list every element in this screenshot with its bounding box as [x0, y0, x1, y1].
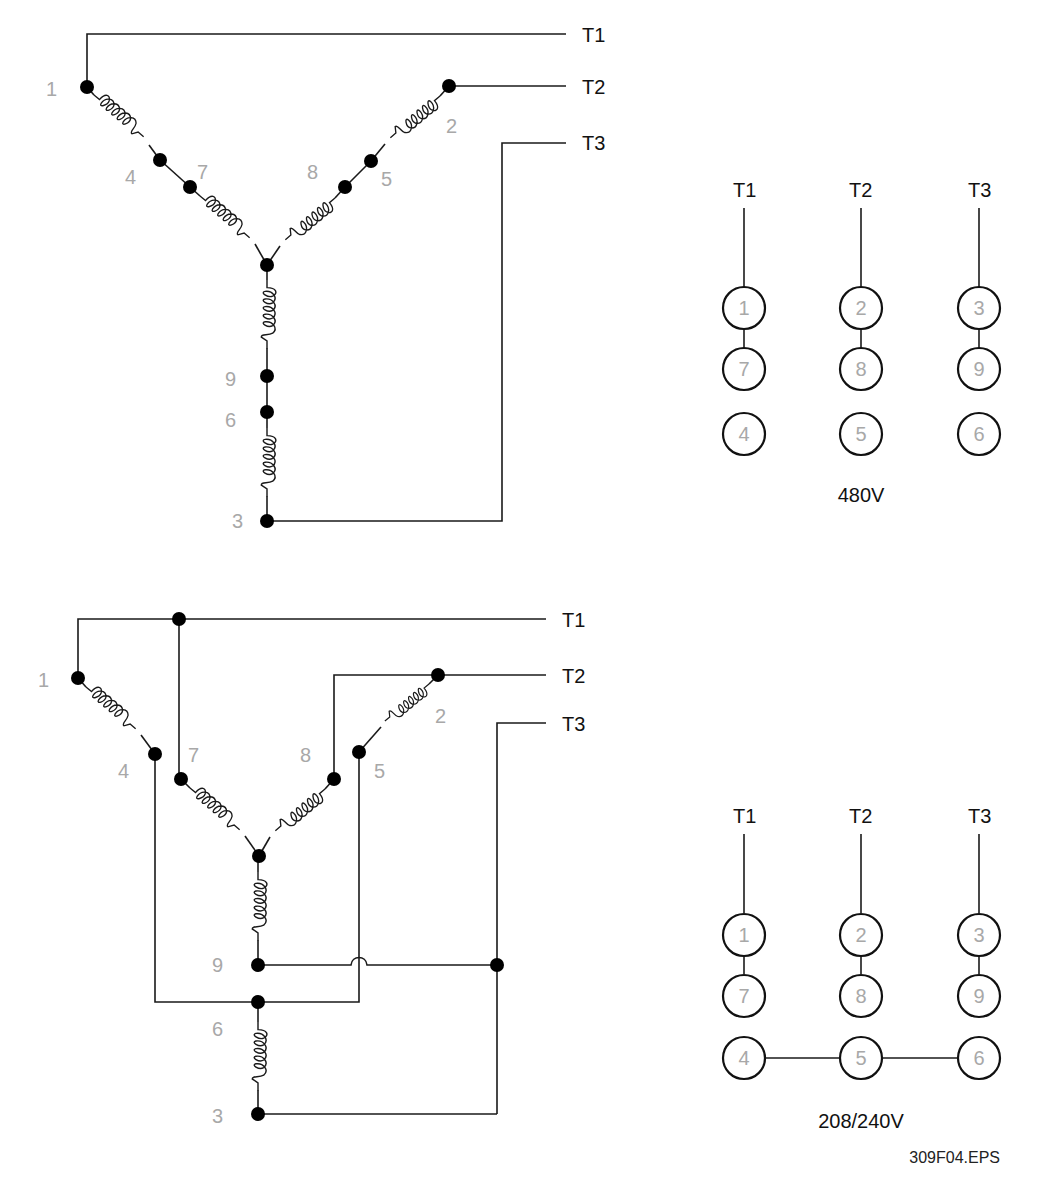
ring-num: 7 — [738, 358, 749, 380]
panel-top-label-t2: T2 — [849, 179, 872, 201]
lead-label-9: 9 — [225, 368, 236, 390]
ring-num: 3 — [973, 297, 984, 319]
label-t1: T1 — [582, 24, 605, 46]
ring-num: 5 — [855, 1047, 866, 1069]
node-6 — [251, 995, 265, 1009]
coil-center-9 — [261, 280, 276, 348]
coil-6-3 — [261, 428, 276, 496]
lead-label-6: 6 — [225, 409, 236, 431]
lead-label-1: 1 — [38, 669, 49, 691]
label-t2: T2 — [562, 665, 585, 687]
t3-wire-top — [268, 143, 566, 521]
lead-label-1: 1 — [46, 78, 57, 100]
coil-1-4 — [83, 681, 142, 733]
node-5 — [364, 154, 378, 168]
node-7 — [183, 180, 197, 194]
ring-num: 6 — [973, 1047, 984, 1069]
node-4 — [153, 153, 167, 167]
lead-label-7: 7 — [188, 744, 199, 766]
label-t1: T1 — [562, 609, 585, 631]
label-t2: T2 — [582, 76, 605, 98]
ring-num: 9 — [973, 358, 984, 380]
coil-7-center — [187, 782, 246, 834]
node-5 — [352, 745, 366, 759]
lead-label-7: 7 — [197, 161, 208, 183]
lead-label-3: 3 — [212, 1105, 223, 1127]
node-3 — [251, 1107, 265, 1121]
panel-top-label-t3: T3 — [968, 179, 991, 201]
label-t3: T3 — [582, 132, 605, 154]
lead-label-2: 2 — [435, 705, 446, 727]
node-8 — [327, 772, 341, 786]
panel-top-label-t1: T1 — [733, 179, 756, 201]
coil-6-3 — [252, 1022, 267, 1090]
coil-8-center — [272, 785, 331, 837]
node-t3-junction — [490, 958, 504, 972]
node-2 — [431, 668, 445, 682]
t1-wire-bottom — [78, 619, 546, 678]
lead-label-4: 4 — [125, 166, 136, 188]
ring-num: 4 — [738, 423, 749, 445]
node-t1-junction — [172, 612, 186, 626]
lead-label-5: 5 — [381, 168, 392, 190]
label-t3: T3 — [562, 713, 585, 735]
node-wye-center — [260, 258, 274, 272]
coil-2-5 — [387, 92, 446, 144]
panel-bottom-label-t2: T2 — [849, 805, 872, 827]
ring-num: 2 — [855, 297, 866, 319]
node-3 — [260, 514, 274, 528]
bottom-wye-diagram: T1 T2 T3 1 4 7 8 5 2 9 6 3 — [38, 609, 585, 1127]
motor-wiring-diagram: T1 T2 T3 1 4 7 8 5 2 9 6 3 T1 T2 T3 1 — [0, 0, 1053, 1184]
top-wye-diagram: T1 T2 T3 1 4 7 8 5 2 9 6 3 — [46, 24, 605, 532]
ring-num: 6 — [973, 423, 984, 445]
ring-num: 5 — [855, 423, 866, 445]
lead-label-9: 9 — [212, 954, 223, 976]
coil-7-center — [197, 190, 256, 242]
node-4 — [148, 747, 162, 761]
node-8 — [338, 180, 352, 194]
ring-num: 1 — [738, 297, 749, 319]
top-terminal-panel: T1 T2 T3 1 7 4 2 8 5 3 9 6 480V — [723, 179, 1000, 506]
panel-bottom-label-t3: T3 — [968, 805, 991, 827]
ring-num: 4 — [738, 1047, 749, 1069]
ring-num: 9 — [973, 985, 984, 1007]
t3-wire-bottom — [497, 723, 546, 1114]
ring-num: 1 — [738, 924, 749, 946]
node-2 — [442, 79, 456, 93]
lead-label-8: 8 — [307, 161, 318, 183]
lead-label-5: 5 — [374, 760, 385, 782]
lead-label-4: 4 — [118, 760, 129, 782]
lead-label-8: 8 — [300, 744, 311, 766]
ring-num: 3 — [973, 924, 984, 946]
coil-8-center — [282, 194, 341, 246]
node-1 — [80, 80, 94, 94]
t1-wire-top — [87, 34, 566, 87]
link-9-t3 — [258, 958, 497, 966]
coil-1-4 — [91, 89, 150, 141]
bottom-terminal-panel: T1 T2 T3 1 7 4 2 8 5 3 9 6 208/240V — [723, 805, 1000, 1132]
lead-label-3: 3 — [232, 510, 243, 532]
coil-center-9 — [252, 872, 267, 940]
node-6 — [260, 405, 274, 419]
voltage-label-480: 480V — [838, 484, 885, 506]
voltage-label-208-240: 208/240V — [818, 1110, 904, 1132]
coil-2-5 — [382, 680, 434, 726]
lead-label-6: 6 — [212, 1018, 223, 1040]
figure-id: 309F04.EPS — [909, 1149, 1000, 1166]
node-1 — [71, 671, 85, 685]
ring-num: 2 — [855, 924, 866, 946]
node-9 — [251, 958, 265, 972]
node-7 — [174, 772, 188, 786]
panel-bottom-label-t1: T1 — [733, 805, 756, 827]
ring-num: 7 — [738, 985, 749, 1007]
lead-label-2: 2 — [446, 115, 457, 137]
node-9 — [260, 369, 274, 383]
ring-num: 8 — [855, 985, 866, 1007]
ring-num: 8 — [855, 358, 866, 380]
node-wye-center — [252, 849, 266, 863]
